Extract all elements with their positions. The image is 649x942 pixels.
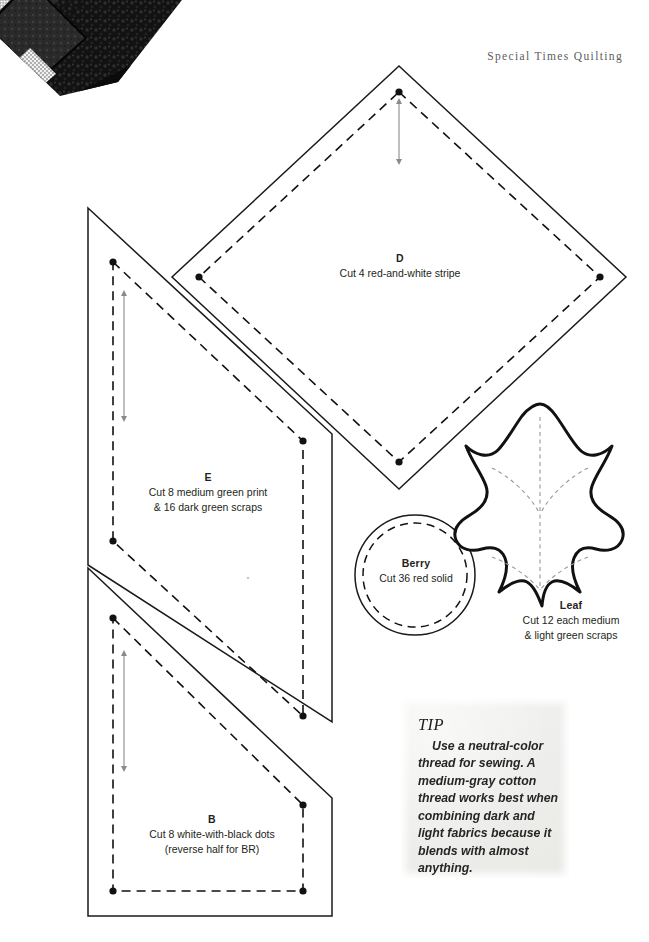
piece-B-line-1: Cut 8 white-with-black dots <box>76 827 348 841</box>
piece-E-corner-dot-bottomright <box>299 712 306 719</box>
piece-E-name: E <box>104 470 312 484</box>
piece-label-leaf: Leaf Cut 12 each medium & light green sc… <box>488 598 649 642</box>
piece-D-line-1: Cut 4 red-and-white stripe <box>296 266 504 280</box>
piece-leaf-line-2: & light green scraps <box>488 628 649 642</box>
piece-B-corner-dot-right <box>299 801 306 808</box>
tip-box: TIP Use a neutral-color thread for sewin… <box>401 698 569 878</box>
piece-leaf-line-1: Cut 12 each medium <box>488 613 649 627</box>
piece-label-B: B Cut 8 white-with-black dots (reverse h… <box>76 812 348 856</box>
piece-leaf-cut-line <box>455 404 623 606</box>
piece-D-corner-dot-right <box>596 273 603 280</box>
pattern-sheet-page: Special Times Quilting <box>0 0 649 942</box>
piece-D-corner-dot-bottom <box>395 458 402 465</box>
piece-B-corner-dot-bottomright <box>299 887 306 894</box>
piece-B-corner-dot-bottomleft <box>109 887 116 894</box>
piece-E-line-1: Cut 8 medium green print <box>104 485 312 499</box>
piece-E-line-2: & 16 dark green scraps <box>104 500 312 514</box>
piece-berry-line-1: Cut 36 red solid <box>352 571 480 585</box>
piece-E-corner-dot-topleft <box>109 258 116 265</box>
piece-B-corner-dot-topleft <box>109 614 116 621</box>
piece-leaf-shape <box>455 404 623 606</box>
piece-E-corner-dot-topright <box>299 437 306 444</box>
piece-label-D: D Cut 4 red-and-white stripe <box>296 251 504 281</box>
piece-label-E: E Cut 8 medium green print & 16 dark gre… <box>104 470 312 514</box>
piece-E-corner-dot-bottomleft <box>109 537 116 544</box>
tip-body: Use a neutral-color thread for sewing. A… <box>418 738 559 878</box>
piece-berry-name: Berry <box>352 556 480 570</box>
tip-title: TIP <box>418 715 559 735</box>
piece-D-corner-dot-top <box>395 88 402 95</box>
piece-leaf-name: Leaf <box>488 598 649 612</box>
piece-D-name: D <box>296 251 504 265</box>
tip-content: TIP Use a neutral-color thread for sewin… <box>418 715 559 878</box>
piece-B-line-2: (reverse half for BR) <box>76 842 348 856</box>
page-speck <box>247 577 250 580</box>
piece-D-corner-dot-left <box>195 273 202 280</box>
piece-label-berry: Berry Cut 36 red solid <box>352 556 480 586</box>
piece-B-name: B <box>76 812 348 826</box>
